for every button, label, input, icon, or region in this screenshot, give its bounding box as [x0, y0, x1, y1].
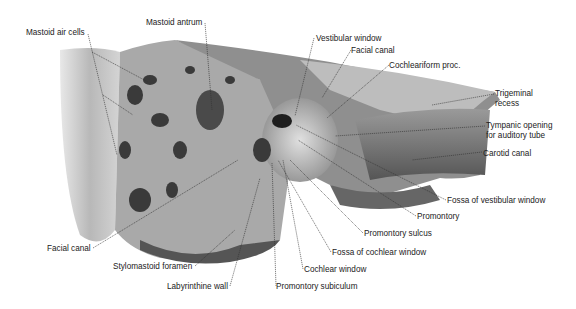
label-carotid-canal: Carotid canal — [483, 149, 531, 159]
label-fossa-vestibular-window: Fossa of vestibular window — [447, 196, 545, 206]
label-fossa-cochlear-window: Fossa of cochlear window — [332, 248, 426, 258]
label-vestibular-window: Vestibular window — [316, 34, 382, 44]
label-labyrinthine-wall: Labyrinthine wall — [167, 282, 228, 292]
label-promontory: Promontory — [417, 212, 459, 222]
label-trigeminal-recess-line1: Trigeminal — [495, 89, 533, 99]
label-cochlear-window: Cochlear window — [304, 265, 366, 275]
anatomy-figure: Mastoid air cells Mastoid antrum Vestibu… — [0, 0, 576, 309]
label-promontory-subiculum: Promontory subiculum — [276, 282, 357, 292]
label-tympanic-opening-line1: Tympanic opening — [486, 121, 552, 131]
label-facial-canal-top: Facial canal — [351, 46, 395, 56]
label-tympanic-opening-line2: for auditory tube — [486, 131, 545, 141]
label-cochleariform-proc: Cochleariform proc. — [389, 61, 460, 71]
label-mastoid-antrum: Mastoid antrum — [146, 18, 202, 28]
label-stylomastoid-foramen: Stylomastoid foramen — [113, 262, 192, 272]
label-trigeminal-recess-line2: recess — [495, 99, 519, 109]
label-promontory-sulcus: Promontory sulcus — [364, 229, 432, 239]
label-facial-canal-bottom: Facial canal — [47, 244, 91, 254]
label-mastoid-air-cells: Mastoid air cells — [26, 28, 85, 38]
